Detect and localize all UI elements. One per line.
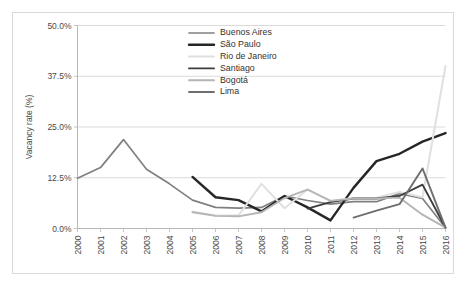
y-tick-label: 37.5% — [47, 71, 72, 81]
x-tick-label: 2003 — [142, 235, 152, 254]
x-tick-label: 2000 — [73, 235, 83, 254]
line-chart: 0.0%12.5%25.0%37.5%50.0%Vacancy rate (%)… — [0, 0, 466, 286]
y-tick-label: 25.0% — [47, 122, 72, 132]
series-line-santiago — [308, 185, 446, 228]
x-tick-label: 2015 — [418, 235, 428, 254]
x-tick-label: 2008 — [257, 235, 267, 254]
y-tick-label: 0.0% — [52, 224, 72, 234]
x-tick-label: 2001 — [96, 235, 106, 254]
x-tick-label: 2007 — [234, 235, 244, 254]
x-tick-label: 2012 — [349, 235, 359, 254]
legend-label: São Paulo — [220, 39, 261, 49]
legend-label: Rio de Janeiro — [220, 51, 277, 61]
x-tick-label: 2016 — [441, 235, 451, 254]
x-tick-label: 2014 — [395, 235, 405, 254]
legend-label: Bogotá — [220, 75, 248, 85]
x-tick-label: 2004 — [165, 235, 175, 254]
x-tick-label: 2013 — [372, 235, 382, 254]
legend-label: Buenos Aires — [220, 27, 272, 37]
y-axis-title: Vacancy rate (%) — [24, 95, 34, 160]
y-tick-label: 50.0% — [47, 21, 72, 31]
chart-figure: 0.0%12.5%25.0%37.5%50.0%Vacancy rate (%)… — [0, 0, 466, 286]
legend-label: Lima — [220, 86, 239, 96]
x-tick-label: 2011 — [326, 235, 336, 254]
x-tick-label: 2009 — [280, 235, 290, 254]
x-tick-label: 2002 — [119, 235, 129, 254]
y-tick-label: 12.5% — [47, 173, 72, 183]
x-tick-label: 2010 — [303, 235, 313, 254]
x-tick-label: 2006 — [211, 235, 221, 254]
legend-label: Santiago — [220, 63, 255, 73]
x-tick-label: 2005 — [188, 235, 198, 254]
